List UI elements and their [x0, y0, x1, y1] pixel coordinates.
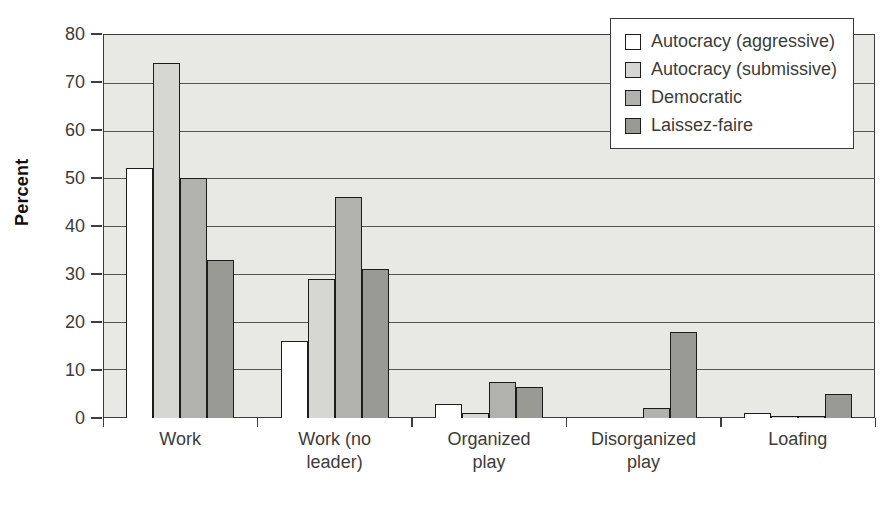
- y-tick-label-10: 10: [25, 360, 85, 381]
- bar-laissez-faire: [825, 394, 852, 418]
- x-category-label-work-no-leader-: Work (no leader): [257, 428, 411, 475]
- y-tick-label-60: 60: [25, 120, 85, 141]
- bar-autocracy-submissive-: [771, 416, 798, 418]
- bar-autocracy-submissive-: [153, 63, 180, 418]
- y-axis-tick-20: [91, 321, 102, 323]
- bar-laissez-faire: [362, 269, 389, 418]
- y-axis-tick-30: [91, 273, 102, 275]
- y-axis-tick-40: [91, 225, 102, 227]
- bar-group-work-no-leader-: [257, 34, 411, 418]
- y-tick-label-40: 40: [25, 216, 85, 237]
- bar-laissez-faire: [207, 260, 234, 418]
- bar-group-work: [103, 34, 257, 418]
- bar-autocracy-aggressive-: [435, 404, 462, 418]
- y-axis-tick-60: [91, 129, 102, 131]
- x-category-label-text: Loafing: [768, 428, 827, 475]
- x-axis-tick-3: [566, 418, 568, 427]
- x-axis-tick-5: [875, 418, 877, 427]
- bar-autocracy-aggressive-: [281, 341, 308, 418]
- y-tick-label-50: 50: [25, 168, 85, 189]
- legend-item-autocracy-submissive-: Autocracy (submissive): [625, 59, 837, 80]
- legend-swatch-icon: [625, 62, 641, 78]
- bar-autocracy-aggressive-: [126, 168, 153, 418]
- bar-democratic: [489, 382, 516, 418]
- y-axis-tick-0: [91, 417, 102, 419]
- y-tick-label-70: 70: [25, 72, 85, 93]
- bar-chart-figure: Percent WorkWork (no leader)Organized pl…: [0, 0, 884, 510]
- y-axis-tick-50: [91, 177, 102, 179]
- bar-democratic: [798, 416, 825, 418]
- legend-label: Autocracy (aggressive): [651, 31, 835, 52]
- legend-swatch-icon: [625, 34, 641, 50]
- legend-swatch-icon: [625, 118, 641, 134]
- x-category-label-work: Work: [103, 428, 257, 475]
- legend-swatch-icon: [625, 90, 641, 106]
- bar-laissez-faire: [516, 387, 543, 418]
- legend-label: Laissez-faire: [651, 115, 753, 136]
- x-axis-tick-1: [257, 418, 259, 427]
- bar-laissez-faire: [670, 332, 697, 418]
- legend-label: Democratic: [651, 87, 742, 108]
- x-axis-tick-0: [103, 418, 105, 427]
- x-category-label-text: Organized play: [431, 428, 547, 475]
- y-tick-label-0: 0: [25, 408, 85, 429]
- x-axis-tick-4: [720, 418, 722, 427]
- x-category-label-text: Disorganized play: [585, 428, 701, 475]
- bar-autocracy-aggressive-: [744, 413, 771, 418]
- x-category-label-loafing: Loafing: [721, 428, 875, 475]
- x-category-label-disorganized-play: Disorganized play: [566, 428, 720, 475]
- y-axis-tick-70: [91, 81, 102, 83]
- bar-group-organized-play: [412, 34, 566, 418]
- bar-democratic: [643, 408, 670, 418]
- legend: Autocracy (aggressive)Autocracy (submiss…: [610, 18, 854, 149]
- y-axis-tick-10: [91, 369, 102, 371]
- x-axis-labels: WorkWork (no leader)Organized playDisorg…: [103, 428, 875, 475]
- bar-autocracy-submissive-: [462, 413, 489, 418]
- x-category-label-text: Work: [159, 428, 201, 475]
- bar-democratic: [180, 178, 207, 418]
- y-tick-label-80: 80: [25, 24, 85, 45]
- y-tick-label-30: 30: [25, 264, 85, 285]
- legend-item-autocracy-aggressive-: Autocracy (aggressive): [625, 31, 837, 52]
- bar-autocracy-submissive-: [308, 279, 335, 418]
- x-category-label-organized-play: Organized play: [412, 428, 566, 475]
- bar-democratic: [335, 197, 362, 418]
- y-tick-label-20: 20: [25, 312, 85, 333]
- x-category-label-text: Work (no leader): [277, 428, 393, 475]
- y-axis-tick-80: [91, 33, 102, 35]
- legend-item-democratic: Democratic: [625, 87, 837, 108]
- x-axis-tick-2: [411, 418, 413, 427]
- legend-item-laissez-faire: Laissez-faire: [625, 115, 837, 136]
- legend-label: Autocracy (submissive): [651, 59, 837, 80]
